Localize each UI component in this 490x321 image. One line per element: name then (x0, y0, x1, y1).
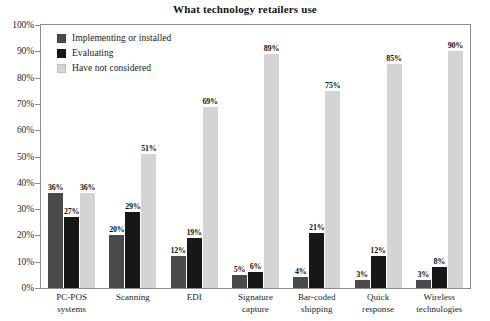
bar[interactable]: 75% (325, 91, 340, 288)
bar-value-label: 27% (64, 207, 79, 216)
chart-title: What technology retailers use (0, 3, 490, 15)
legend-item[interactable]: Evaluating (57, 46, 267, 60)
bar[interactable]: 21% (309, 233, 324, 288)
bar-value-label: 75% (325, 81, 340, 90)
legend-swatch-icon (57, 49, 66, 58)
bar-group: 3%8%90% (416, 25, 463, 288)
bar[interactable]: 20% (109, 235, 124, 288)
bar-value-label: 85% (386, 54, 401, 63)
y-axis-tick-label: 20% (17, 230, 34, 240)
y-axis-tick-label: 30% (17, 204, 34, 214)
bar[interactable]: 6% (248, 272, 263, 288)
bar-value-label: 20% (109, 225, 124, 234)
x-axis-category-label: Wirelesstechnologies (403, 292, 476, 315)
bar[interactable]: 19% (187, 238, 202, 288)
bar-value-label: 8% (434, 257, 446, 266)
bar-value-label: 12% (370, 246, 385, 255)
bar[interactable]: 69% (203, 107, 218, 288)
bar[interactable]: 8% (432, 267, 447, 288)
bar-value-label: 29% (125, 202, 140, 211)
bar[interactable]: 4% (293, 277, 308, 288)
bar[interactable]: 3% (416, 280, 431, 288)
y-axis-tick-label: 50% (17, 152, 34, 162)
bar[interactable]: 27% (64, 217, 79, 288)
bar-value-label: 6% (250, 262, 262, 271)
chart-legend: Implementing or installedEvaluatingHave … (57, 31, 267, 76)
bar-value-label: 3% (356, 270, 368, 279)
legend-swatch-icon (57, 64, 66, 73)
bar[interactable]: 85% (387, 64, 402, 288)
legend-label: Evaluating (72, 48, 114, 58)
bar[interactable]: 12% (371, 256, 386, 288)
bar-value-label: 12% (171, 246, 186, 255)
x-axis-labels: PC-POSsystemsScanningEDISignaturecapture… (41, 292, 470, 321)
bar-value-label: 4% (295, 267, 307, 276)
bar[interactable]: 36% (80, 193, 95, 288)
bar[interactable]: 90% (448, 51, 463, 288)
bar[interactable]: 29% (125, 212, 140, 288)
bar-value-label: 69% (203, 97, 218, 106)
bar[interactable]: 3% (355, 280, 370, 288)
y-axis-tick-label: 60% (17, 125, 34, 135)
x-axis-category-line: systems (35, 304, 108, 316)
y-axis-tick-label: 80% (17, 73, 34, 83)
legend-item[interactable]: Implementing or installed (57, 31, 267, 45)
bar-chart: What technology retailers use 100%90%80%… (0, 0, 490, 321)
bar[interactable]: 36% (48, 193, 63, 288)
legend-label: Have not considered (72, 63, 151, 73)
bar-value-label: 36% (80, 183, 95, 192)
x-axis-category-line: Wireless (403, 292, 476, 304)
bar-value-label: 90% (448, 41, 463, 50)
bar-value-label: 36% (48, 183, 63, 192)
y-axis-tick-label: 100% (12, 20, 34, 30)
y-axis-tick-label: 10% (17, 257, 34, 267)
bar-value-label: 21% (309, 223, 324, 232)
y-axis-tick-label: 90% (17, 46, 34, 56)
legend-item[interactable]: Have not considered (57, 61, 267, 75)
bar-value-label: 51% (141, 144, 156, 153)
bar-value-label: 5% (234, 265, 246, 274)
y-axis: 100%90%80%70%60%50%40%30%20%10%0% (0, 24, 40, 289)
y-axis-tick-label: 0% (22, 283, 34, 293)
bar[interactable]: 89% (264, 54, 279, 288)
bar-group: 4%21%75% (293, 25, 340, 288)
bar-value-label: 19% (187, 228, 202, 237)
bar[interactable]: 51% (141, 154, 156, 288)
y-axis-tick-label: 70% (17, 99, 34, 109)
legend-label: Implementing or installed (72, 33, 171, 43)
bar[interactable]: 12% (171, 256, 186, 288)
bar-value-label: 3% (418, 270, 430, 279)
y-axis-tick-label: 40% (17, 178, 34, 188)
bar[interactable]: 5% (232, 275, 247, 288)
x-axis-category-line: technologies (403, 304, 476, 316)
bar-group: 3%12%85% (355, 25, 402, 288)
legend-swatch-icon (57, 34, 66, 43)
